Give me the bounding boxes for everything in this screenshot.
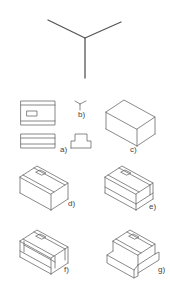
panel-g-label: g) [158,266,165,274]
panel-e-step-lines [105,166,153,210]
panel-f-label: f) [64,266,69,274]
panel-d-top-features [20,166,68,210]
panel-f-step-construction [20,230,68,274]
panel-b-label: b) [78,111,85,119]
isometric-figure [0,0,170,292]
panel-b-axes [75,101,86,110]
panel-c-label: c) [130,146,137,154]
panel-g-finished [107,230,159,278]
panel-a-orthographic [21,101,91,148]
panel-c-box [106,100,155,146]
isometric-axes-icon [48,20,121,78]
panel-e-label: e) [149,203,156,211]
panel-d-label: d) [68,200,75,208]
panel-a-label: a) [60,146,67,154]
